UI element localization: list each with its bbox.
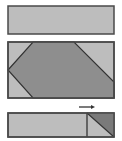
diagram-canvas: [0, 0, 122, 141]
right-arrow-icon: [79, 105, 95, 109]
top-panel: [8, 6, 114, 34]
